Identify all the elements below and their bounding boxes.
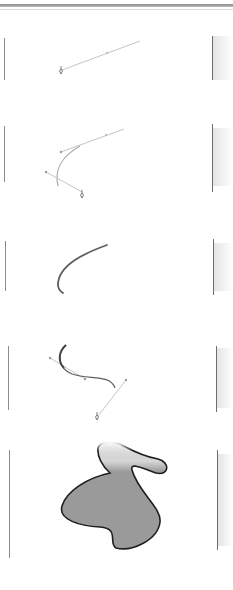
pen-cursor-icon xyxy=(96,412,99,420)
finished-curve xyxy=(58,245,107,293)
step-4-panel xyxy=(0,340,233,420)
step-2-panel xyxy=(0,120,233,200)
step-1-illustration xyxy=(0,30,233,90)
step-4-illustration xyxy=(0,340,233,420)
step-2-illustration xyxy=(0,120,233,200)
step-3-illustration xyxy=(0,235,233,305)
pen-cursor-icon xyxy=(60,66,63,74)
step-5-illustration xyxy=(0,440,233,560)
handle-point xyxy=(106,52,108,54)
handle-line-2 xyxy=(46,172,82,192)
step-3-panel xyxy=(0,235,233,305)
direction-handle-line xyxy=(62,41,140,70)
handle-line-1 xyxy=(61,129,124,152)
handle-line-2 xyxy=(98,380,126,416)
right-frame-shadow xyxy=(213,36,233,80)
step-1-panel xyxy=(0,30,233,90)
curve-segment xyxy=(60,345,115,388)
closed-filled-shape xyxy=(62,442,167,549)
step-5-panel xyxy=(0,440,233,560)
top-rule xyxy=(0,4,233,7)
top-rule-secondary xyxy=(0,9,233,10)
